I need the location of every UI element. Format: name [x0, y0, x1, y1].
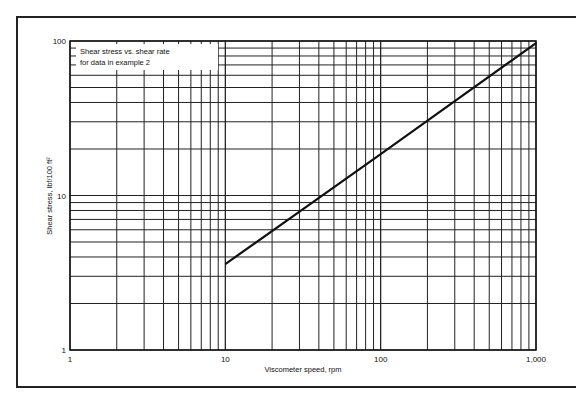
y-tick-label: 10	[57, 192, 66, 201]
x-tick-label: 100	[374, 355, 388, 364]
y-tick-label: 1	[62, 346, 67, 355]
x-axis-label: Viscometer speed, rpm	[265, 365, 342, 374]
x-tick-label: 10	[221, 355, 230, 364]
annotation-line-2: for data in example 2	[80, 58, 150, 67]
annotation-line-1: Shear stress vs. shear rate	[80, 47, 170, 56]
x-tick-label: 1	[68, 355, 73, 364]
grid-lines	[70, 41, 536, 350]
y-axis-label: Shear stress, lbf/100 ft²	[45, 157, 54, 235]
y-tick-label: 100	[53, 37, 67, 46]
x-tick-label: 1,000	[526, 355, 547, 364]
